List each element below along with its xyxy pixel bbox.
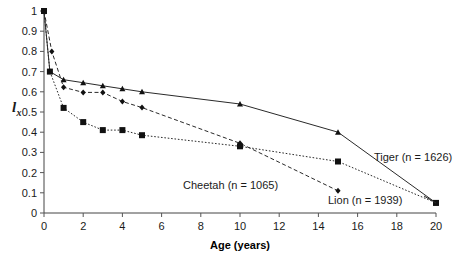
y-axis-title-subscript: x [16,107,22,118]
series-label-cheetah: Cheetah (n = 1065) [183,179,278,191]
y-tick-label: 0.1 [22,187,37,199]
series-label-lion-full: Lion (n = 1939) [328,194,402,206]
y-tick-label: 0.9 [22,25,37,37]
data-point-marker [335,188,340,194]
y-axis-title: l x [12,99,22,118]
survivorship-chart-figure: 0 0.1 0.2 0.3 0.4 0.5 0.6 0.7 0.8 0.9 1 [0,0,460,258]
y-tick-label: 0.5 [22,106,37,118]
data-point-marker [237,143,243,149]
x-axis-title: Age (years) [210,239,270,251]
series-annotations-group: Tiger (n = 1626) Lion (n = 1939) Cheetah… [183,151,452,206]
chart-canvas: 0 0.1 0.2 0.3 0.4 0.5 0.6 0.7 0.8 0.9 1 [0,0,460,258]
x-tick-label: 18 [391,220,403,232]
y-tick-label: 0.4 [22,126,37,138]
series-lion-line [44,11,338,191]
y-tick-label: 0.7 [22,66,37,78]
leader-line-lion-to-point [424,196,436,203]
series-cheetah-line [44,11,436,203]
series-tiger-line [44,11,436,203]
y-tick-label: 0.3 [22,146,37,158]
y-tick-label: 0.2 [22,167,37,179]
data-point-marker [61,84,66,90]
series-tiger [41,8,439,205]
data-point-marker [61,105,67,111]
y-axis-ticks-group: 0 0.1 0.2 0.3 0.4 0.5 0.6 0.7 0.8 0.9 1 [22,5,44,219]
x-tick-label: 16 [351,220,363,232]
x-tick-label: 6 [159,220,165,232]
data-point-marker [335,159,341,165]
x-tick-label: 0 [41,220,47,232]
series-label-tiger: Tiger (n = 1626) [374,151,452,163]
x-tick-label: 4 [119,220,125,232]
x-axis-ticks-group: 0 2 4 6 8 10 12 14 16 18 20 [41,213,442,232]
series-cheetah [41,8,439,206]
data-point-marker [119,127,125,133]
data-point-marker [80,119,86,125]
x-tick-label: 8 [198,220,204,232]
y-tick-label: 0.8 [22,45,37,57]
y-tick-label: 1 [31,5,37,17]
data-point-marker [41,8,47,14]
x-tick-label: 10 [234,220,246,232]
data-point-marker [49,48,54,54]
data-point-marker [120,99,125,105]
x-tick-label: 14 [312,220,324,232]
data-point-marker [47,69,53,75]
x-tick-label: 2 [80,220,86,232]
data-point-marker [100,127,106,133]
y-tick-label: 0 [31,207,37,219]
series-lion [41,8,340,194]
data-point-marker [100,89,105,95]
data-point-marker [139,132,145,138]
x-tick-label: 12 [273,220,285,232]
y-tick-label: 0.6 [22,86,37,98]
data-point-marker [139,105,144,111]
data-point-marker [81,89,86,95]
x-tick-label: 20 [430,220,442,232]
